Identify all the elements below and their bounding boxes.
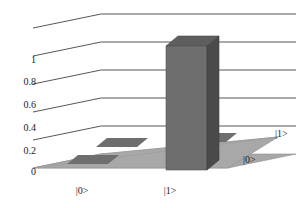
gridline-group [33, 14, 296, 140]
floor-marker-cell-0-1 [96, 138, 148, 147]
x-axis-label-ket1: |1> [155, 186, 185, 196]
y-tick-label: 1 [12, 55, 36, 65]
z-axis-label-ket1: |1> [275, 129, 288, 139]
y-tick-label: 0 [12, 167, 36, 177]
gridline-0.2 [33, 126, 296, 140]
x-axis-label-ket0: |0> [67, 186, 97, 196]
bar-side-face [207, 36, 219, 170]
z-axis-label-ket0: |0> [243, 155, 256, 165]
y-tick-label: 0.2 [7, 146, 36, 156]
bar-front-face [166, 46, 207, 170]
gridline-0.8 [33, 42, 296, 56]
quantum-probability-3d-bar-chart: 1 0.8 0.6 0.4 0.2 0 |0> |1> |1> |0> [0, 0, 301, 208]
gridline-0.4 [33, 98, 296, 112]
y-tick-label: 0.8 [7, 77, 36, 87]
chart-canvas [0, 0, 301, 208]
bar-state-1-1 [166, 36, 219, 170]
gridline-0.6 [33, 70, 296, 84]
gridline-1 [33, 14, 296, 28]
y-tick-label: 0.6 [7, 100, 36, 110]
y-tick-label: 0.4 [7, 123, 36, 133]
